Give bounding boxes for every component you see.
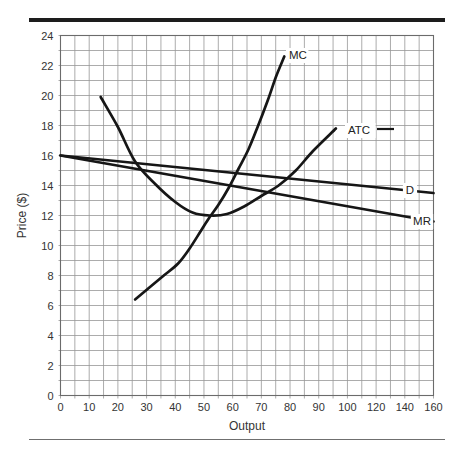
atc-curve-label: ATC: [348, 124, 370, 136]
y-tick-label: 2: [47, 360, 53, 372]
x-tick-label: 40: [169, 401, 181, 413]
chart-svg: 0102030405060708090100120140160024681012…: [0, 0, 468, 469]
mc-curve-label: MC: [289, 49, 307, 61]
y-tick-label: 10: [41, 240, 53, 252]
x-tick-label: 140: [396, 401, 414, 413]
x-axis-title: Output: [229, 419, 266, 433]
y-tick-label: 8: [47, 270, 53, 282]
x-tick-label: 160: [424, 401, 442, 413]
y-tick-label: 12: [41, 210, 53, 222]
y-tick-label: 4: [47, 330, 53, 342]
y-tick-label: 24: [41, 30, 53, 42]
y-tick-label: 14: [41, 180, 53, 192]
x-tick-label: 60: [227, 401, 239, 413]
bottom-rule: [29, 439, 445, 440]
y-tick-label: 16: [41, 150, 53, 162]
y-axis-title: Price ($): [15, 193, 29, 238]
x-tick-label: 100: [338, 401, 356, 413]
x-tick-label: 70: [255, 401, 267, 413]
x-tick-label: 90: [313, 401, 325, 413]
economics-chart: 0102030405060708090100120140160024681012…: [0, 0, 468, 469]
d-curve-label: D: [406, 184, 414, 196]
mc-curve: [135, 57, 284, 300]
grid: [59, 36, 434, 399]
tick-labels: 0102030405060708090100120140160024681012…: [41, 30, 442, 413]
x-tick-label: 20: [112, 401, 124, 413]
figure-page: 0102030405060708090100120140160024681012…: [0, 0, 468, 469]
y-tick-label: 20: [41, 90, 53, 102]
y-tick-label: 18: [41, 120, 53, 132]
x-tick-label: 0: [57, 401, 63, 413]
x-tick-label: 80: [284, 401, 296, 413]
x-tick-label: 10: [83, 401, 95, 413]
x-tick-label: 120: [367, 401, 385, 413]
y-tick-label: 0: [47, 390, 53, 402]
x-tick-label: 30: [140, 401, 152, 413]
y-tick-label: 22: [41, 60, 53, 72]
x-tick-label: 50: [198, 401, 210, 413]
mr-curve-label: MR: [413, 215, 431, 227]
y-tick-label: 6: [47, 300, 53, 312]
